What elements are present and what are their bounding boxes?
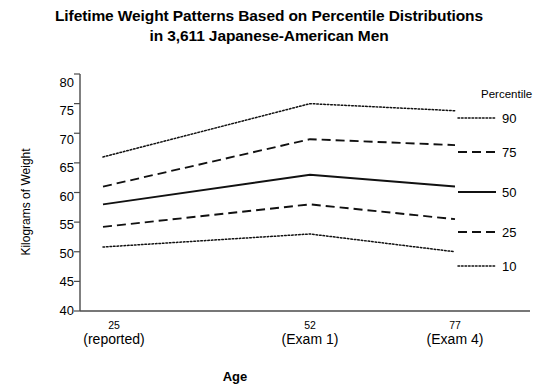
series-lines [103,104,455,252]
series-line-p90 [103,104,455,157]
series-line-p10 [103,234,455,252]
chart-figure: Lifetime Weight Patterns Based on Percen… [0,0,538,389]
plot-canvas [0,0,538,389]
y-tick-marks [74,74,80,311]
series-line-p25 [103,204,455,227]
series-line-p50 [103,175,455,205]
legend-swatches [458,118,496,266]
